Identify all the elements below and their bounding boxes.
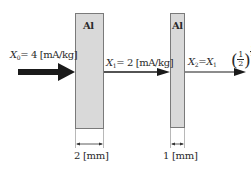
incident-beam-arrow — [18, 63, 75, 81]
diagram-graphics — [0, 0, 251, 171]
plate2-dimension — [171, 128, 185, 148]
plate2-material-label: Al — [172, 20, 183, 31]
incident-dose-label: X0= 4 [mA/kg] — [10, 49, 77, 61]
exponent: 1 2 — [250, 46, 251, 57]
transmitted-beam-arrow-1 — [104, 68, 170, 76]
fraction: 1 2 — [237, 51, 244, 68]
plate2-thickness-label: 1 [mm] — [163, 150, 198, 161]
plate1-dimension — [76, 129, 104, 148]
plate1-material-label: Al — [83, 20, 94, 31]
plate1-thickness-label: 2 [mm] — [74, 150, 109, 161]
transmitted-dose-label-1: X1= 2 [mA/kg] — [106, 57, 173, 69]
transmitted-dose-label-2: X2=X1 ( 1 2 ) 1 2 — [188, 50, 216, 70]
